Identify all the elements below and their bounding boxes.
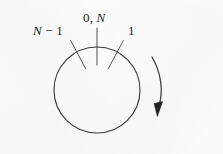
- label-zero-n-variable: N: [97, 10, 106, 25]
- figure-container: N − 1 0, N 1: [0, 0, 223, 154]
- label-n-minus-1-number: 1: [56, 23, 63, 38]
- label-zero-n-prefix: 0,: [83, 10, 97, 25]
- label-one: 1: [128, 24, 135, 37]
- label-n-minus-1-variable: N: [33, 23, 42, 38]
- label-zero-n: 0, N: [83, 11, 105, 24]
- clockwise-rotation-arrow-shaft: [152, 57, 161, 107]
- label-n-minus-1-operator: −: [42, 23, 56, 38]
- label-n-minus-1: N − 1: [33, 24, 63, 37]
- clockwise-rotation-arrowhead-icon: [154, 102, 163, 117]
